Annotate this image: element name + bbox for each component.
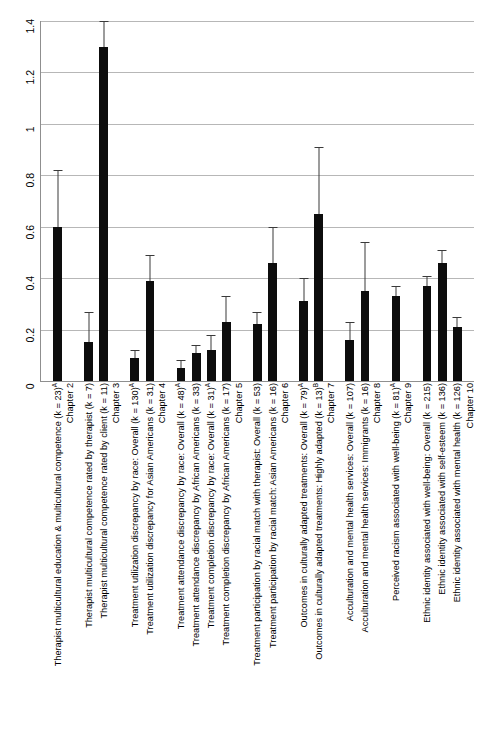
bar[interactable] (314, 214, 323, 381)
x-axis-label: Treatment utilization discrepancy for As… (145, 383, 155, 635)
bar[interactable] (192, 353, 201, 381)
bar-slot (453, 21, 462, 381)
x-axis-label: Treatment utilization discrepancy by rac… (130, 383, 140, 627)
bar[interactable] (361, 291, 370, 381)
bar[interactable] (345, 340, 354, 381)
x-axis-label: Treatment completion discrepancy by race… (206, 383, 216, 628)
error-bar (211, 335, 212, 350)
group-label-slot: Chapter 8 (370, 383, 385, 734)
bar[interactable] (392, 296, 401, 381)
bar[interactable] (253, 324, 262, 381)
bar[interactable] (299, 301, 308, 381)
bar-slot (146, 21, 155, 381)
error-bar (181, 360, 182, 368)
x-label-slot: Outcomes in culturally adapted treatment… (296, 383, 311, 734)
bar-slot (253, 21, 262, 381)
bar[interactable] (438, 263, 447, 381)
footnote-marker: A (389, 383, 396, 387)
bar[interactable] (84, 342, 93, 381)
x-axis-label: Therapist multicultural competence rated… (99, 383, 109, 619)
error-bar (364, 242, 365, 291)
x-label-slot: Ethnic identity associated with self-est… (435, 383, 450, 734)
y-axis-tick: 0 (31, 386, 42, 392)
bar-slot (392, 21, 401, 381)
error-bar-cap (222, 296, 231, 297)
group-label-slot: Chapter 2 (62, 383, 77, 734)
error-bar (457, 317, 458, 327)
bar[interactable] (130, 358, 139, 381)
error-bar-cap (438, 250, 447, 251)
error-bar-cap (53, 170, 62, 171)
error-bar (257, 312, 258, 325)
group-label-slot: Chapter 6 (277, 383, 292, 734)
group-label-slot: Chapter 7 (324, 383, 339, 734)
bar-slot (345, 21, 354, 381)
x-label-slot: Treatment attendance discrepancy by Afri… (189, 383, 204, 734)
error-bar-cap (314, 147, 323, 148)
bar[interactable] (453, 327, 462, 381)
bar-slot (130, 21, 139, 381)
error-bar (427, 276, 428, 286)
error-bar-cap (299, 278, 308, 279)
error-bar-cap (268, 227, 277, 228)
x-label-slot: Treatment participation by racial match … (250, 383, 265, 734)
chapter-group-label: Chapter 2 (65, 383, 75, 423)
error-bar (196, 345, 197, 353)
chapter-group-label: Chapter 10 (465, 383, 475, 428)
group-label-slot: Chapter 3 (109, 383, 124, 734)
footnote-marker: B (312, 383, 319, 387)
error-bar-cap (423, 276, 432, 277)
bar-slot (84, 21, 93, 381)
bar-slot (299, 21, 308, 381)
error-bar (303, 278, 304, 301)
bar[interactable] (207, 350, 216, 381)
bar[interactable] (53, 227, 62, 381)
error-bar-cap (145, 255, 154, 256)
x-axis-label: Treatment completion discrepancy by Afri… (221, 383, 231, 645)
chapter-group-label: Chapter 7 (326, 383, 336, 423)
bar[interactable] (99, 47, 108, 381)
error-bar-cap (84, 312, 93, 313)
error-bar-cap (130, 350, 139, 351)
bar[interactable] (177, 368, 186, 381)
group-label-slot: Chapter 10 (462, 383, 477, 734)
error-bar (349, 322, 350, 340)
error-bar (134, 350, 135, 358)
x-axis-label: Treatment attendance discrepancy by race… (176, 383, 186, 629)
x-axis-label: Acculturation and mental health services… (345, 383, 355, 621)
group-label-slot: Chapter 5 (231, 383, 246, 734)
bar[interactable] (423, 286, 432, 381)
chapter-group-label: Chapter 9 (403, 383, 413, 423)
bar-slot (438, 21, 447, 381)
x-axis-label: Treatment participation by racial match:… (268, 383, 278, 648)
error-bar (88, 312, 89, 343)
error-bar-cap (177, 360, 186, 361)
error-bar (149, 255, 150, 281)
bar[interactable] (146, 281, 155, 381)
bar-slot (177, 21, 186, 381)
x-label-slot: Therapist multicultural competence rated… (81, 383, 96, 734)
footnote-marker: A (51, 383, 58, 387)
bar-slot (222, 21, 231, 381)
chapter-group-label: Chapter 8 (372, 383, 382, 423)
error-bar (272, 227, 273, 263)
bar-series (41, 21, 474, 381)
error-bar-cap (207, 335, 216, 336)
error-bar (226, 296, 227, 322)
footnote-marker: A (204, 383, 211, 387)
x-label-slot: Treatment utilization discrepancy by rac… (127, 383, 142, 734)
error-bar (318, 147, 319, 214)
group-label-slot: Chapter 9 (401, 383, 416, 734)
bar-slot (361, 21, 370, 381)
x-axis-label: Acculturation and mental health services… (360, 383, 370, 632)
error-bar-cap (192, 345, 201, 346)
error-bar-cap (345, 322, 354, 323)
bar[interactable] (268, 263, 277, 381)
group-label-slot: Chapter 4 (155, 383, 170, 734)
bar[interactable] (222, 322, 231, 381)
x-axis-label: Perceived racism associated with well-be… (391, 383, 401, 601)
error-bar (442, 250, 443, 263)
x-axis-label: Therapist multicultural education & mult… (53, 383, 63, 666)
x-label-slot: Treatment attendance discrepancy by race… (173, 383, 188, 734)
